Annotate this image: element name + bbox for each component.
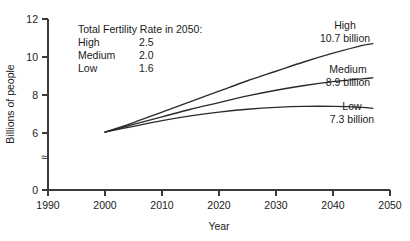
series-label-medium-value: 8.9 billion bbox=[326, 76, 371, 88]
annotation-row-medium-label: Medium bbox=[78, 49, 116, 61]
series-label-medium-name: Medium bbox=[329, 63, 367, 75]
annotation-title: Total Fertility Rate in 2050: bbox=[78, 23, 202, 35]
annotation-row-medium-value: 2.0 bbox=[139, 49, 154, 61]
y-tick-label-8: 8 bbox=[32, 89, 38, 101]
y-tick-label-10: 10 bbox=[26, 51, 38, 63]
series-labels: High 10.7 billion Medium 8.9 billion Low… bbox=[320, 19, 374, 125]
y-tick-label-6: 6 bbox=[32, 127, 38, 139]
fertility-rate-annotation: Total Fertility Rate in 2050: High 2.5 M… bbox=[78, 23, 202, 74]
population-projection-chart: 12 10 8 6 0 ≈ 1990 2000 2010 2020 2030 2… bbox=[0, 0, 410, 241]
annotation-row-high-label: High bbox=[78, 36, 100, 48]
series-label-high-name: High bbox=[334, 19, 356, 31]
y-tick-label-0: 0 bbox=[32, 184, 38, 196]
series-label-low-name: Low bbox=[342, 100, 362, 112]
annotation-row-low-label: Low bbox=[78, 62, 98, 74]
series-label-high-value: 10.7 billion bbox=[320, 32, 370, 44]
x-tick-label-1990: 1990 bbox=[36, 199, 60, 211]
y-axis-title: Billions of people bbox=[4, 64, 16, 144]
chart-canvas: 12 10 8 6 0 ≈ 1990 2000 2010 2020 2030 2… bbox=[0, 0, 410, 241]
x-tick-label-2050: 2050 bbox=[378, 199, 402, 211]
series-label-low-value: 7.3 billion bbox=[330, 113, 375, 125]
x-tick-label-2000: 2000 bbox=[93, 199, 117, 211]
annotation-row-high-value: 2.5 bbox=[139, 36, 154, 48]
x-axis-title: Year bbox=[208, 220, 230, 232]
x-tick-label-2020: 2020 bbox=[207, 199, 231, 211]
y-axis-ticks bbox=[42, 19, 48, 190]
x-tick-label-2010: 2010 bbox=[150, 199, 174, 211]
y-tick-label-12: 12 bbox=[26, 13, 38, 25]
y-axis-break-icon: ≈ bbox=[41, 151, 47, 163]
annotation-row-low-value: 1.6 bbox=[139, 62, 154, 74]
x-axis-ticks bbox=[48, 190, 390, 196]
x-tick-label-2030: 2030 bbox=[264, 199, 288, 211]
x-tick-label-2040: 2040 bbox=[321, 199, 345, 211]
